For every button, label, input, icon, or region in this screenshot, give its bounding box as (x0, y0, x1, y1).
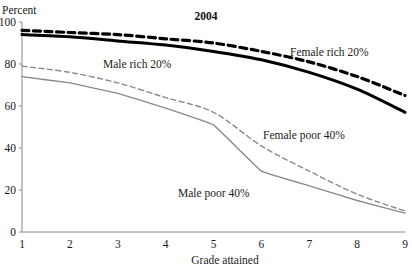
x-tick-label-group: 123456789 (19, 238, 408, 250)
series-label-male-poor-40: Male poor 40% (178, 187, 250, 200)
x-tick-label: 7 (306, 238, 312, 250)
y-tick-label: 20 (5, 184, 17, 196)
y-tick-label: 0 (10, 226, 16, 238)
series-label-female-rich-20: Female rich 20% (290, 46, 369, 58)
y-tick-label: 60 (5, 100, 17, 112)
x-tick-label: 4 (163, 238, 169, 250)
chart-container: Percent 2004 020406080100 123456789 Fema… (0, 0, 412, 272)
series-label-male-rich-20: Male rich 20% (103, 58, 172, 70)
x-tick-label: 6 (259, 238, 265, 250)
y-tick-label: 40 (5, 142, 17, 154)
series-label-female-poor-40: Female poor 40% (263, 129, 345, 142)
y-axis-caption: Percent (2, 4, 37, 16)
x-tick-label: 8 (354, 238, 360, 250)
x-tick-label: 3 (115, 238, 121, 250)
x-tick-label: 1 (19, 238, 25, 250)
y-tick-label-group: 020406080100 (0, 16, 16, 238)
x-tick-label: 9 (402, 238, 408, 250)
x-tick-label: 2 (67, 238, 73, 250)
line-chart: Percent 2004 020406080100 123456789 Fema… (0, 0, 412, 272)
chart-title: 2004 (195, 10, 218, 22)
y-tick-label: 100 (0, 16, 16, 28)
y-tick-label: 80 (5, 58, 17, 70)
x-axis-caption: Grade attained (191, 254, 259, 266)
x-tick-label: 5 (211, 238, 217, 250)
